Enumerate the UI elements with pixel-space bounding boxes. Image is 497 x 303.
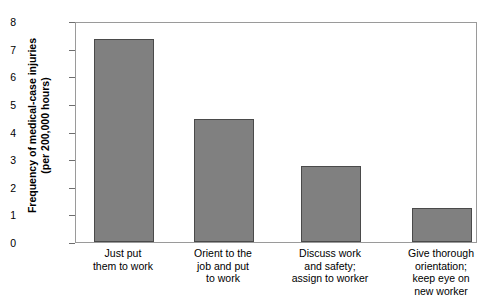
bar-chart-figure: Frequency of medical-case injuries (per … [0,0,497,303]
x-category-label-line: Give thorough [386,247,496,260]
x-category-label: Discuss workand safety;assign to worker [275,247,385,285]
y-tick-mark [69,243,75,244]
x-category-label-line: keep eye on [386,272,496,285]
y-tick-label: 5 [0,100,16,110]
y-axis-title-line-2: (per 200,000 hours) [38,11,51,241]
x-category-label-line: them to work [68,260,178,273]
y-tick-label: 6 [0,72,16,82]
y-tick-label: 2 [0,183,16,193]
x-category-label: Orient to thejob and putto work [168,247,278,285]
y-tick-label: 1 [0,210,16,220]
x-category-label-line: orientation; [386,260,496,273]
x-category-label-line: and safety; [275,260,385,273]
x-category-label-line: to work [168,272,278,285]
y-axis-title: Frequency of medical-case injuries (per … [26,11,51,241]
y-tick-label: 3 [0,155,16,165]
x-category-label-line: assign to worker [275,272,385,285]
bar [94,39,154,242]
x-category-label-line: Orient to the [168,247,278,260]
x-category-label: Give thoroughorientation;keep eye onnew … [386,247,496,297]
x-category-label: Just putthem to work [68,247,178,272]
y-tick-label: 4 [0,128,16,138]
x-category-label-line: Discuss work [275,247,385,260]
bar [194,119,254,242]
y-tick-label: 7 [0,45,16,55]
bar [301,166,361,242]
y-axis-title-line-1: Frequency of medical-case injuries [26,11,39,241]
x-category-label-line: Just put [68,247,178,260]
x-category-label-line: job and put [168,260,278,273]
y-tick-label: 0 [0,238,16,248]
plot-area [75,22,477,243]
bar [412,208,472,242]
y-tick-label: 8 [0,17,16,27]
x-category-label-line: new worker [386,285,496,298]
